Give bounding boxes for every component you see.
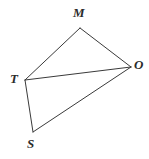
- vertex-label-s: S: [27, 137, 34, 150]
- vertex-label-t: T: [10, 72, 18, 85]
- edge-m-t: [25, 28, 80, 80]
- geometry-figure-canvas: M O T S: [0, 0, 149, 159]
- edge-t-s: [25, 80, 33, 132]
- edge-m-o: [80, 28, 131, 67]
- geometry-figure-svg: [0, 0, 149, 159]
- vertex-label-m: M: [73, 6, 85, 19]
- vertex-label-o: O: [134, 58, 143, 71]
